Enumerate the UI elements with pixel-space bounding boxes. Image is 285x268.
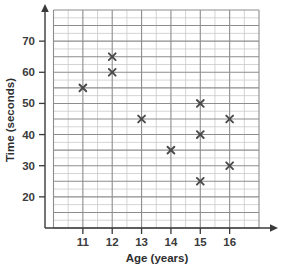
axis-lines	[41, 4, 278, 232]
x-axis-ticks: 111213141516	[77, 228, 236, 248]
y-axis-title: Time (seconds)	[4, 78, 16, 162]
x-tick-label: 16	[223, 236, 236, 248]
x-tick-label: 14	[165, 236, 178, 248]
x-tick-label: 15	[194, 236, 207, 248]
x-axis-arrow-icon	[270, 224, 278, 232]
x-tick-label: 11	[77, 236, 90, 248]
y-axis-arrow-icon	[41, 4, 49, 12]
x-tick-label: 13	[135, 236, 148, 248]
y-tick-label: 50	[22, 97, 35, 109]
y-tick-label: 70	[22, 35, 35, 47]
x-axis-title: Age (years)	[126, 252, 189, 264]
chart-canvas: 111213141516 203040506070 Age (years) Ti…	[0, 0, 285, 268]
y-axis-ticks: 203040506070	[22, 35, 45, 203]
y-tick-label: 40	[22, 129, 35, 141]
x-tick-label: 12	[106, 236, 119, 248]
scatter-plot-figure: 111213141516 203040506070 Age (years) Ti…	[0, 0, 285, 268]
y-tick-label: 30	[22, 160, 35, 172]
y-tick-label: 20	[22, 191, 35, 203]
y-tick-label: 60	[22, 66, 35, 78]
